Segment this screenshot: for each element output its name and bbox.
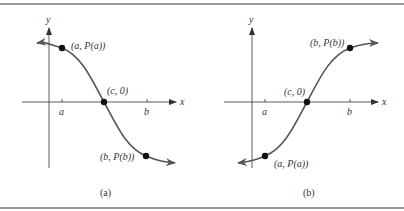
point-c	[304, 99, 310, 105]
panel-a: x y a b (a, P(a)) (c, 0) (b, P(b)) (a)	[22, 14, 185, 199]
tick-a-label: a	[262, 106, 267, 117]
caption-a: (a)	[100, 187, 111, 199]
y-axis-label: y	[45, 14, 51, 25]
curve	[37, 42, 62, 48]
point-a	[59, 45, 65, 51]
x-axis-label: x	[179, 96, 185, 107]
tick-b-label: b	[347, 106, 352, 117]
point-a	[262, 153, 268, 159]
curve-head	[238, 156, 265, 163]
panel-b: x y a b (a, P(a)) (c, 0) (b, P(b)) (b)	[224, 14, 387, 199]
tick-b-label: b	[144, 106, 149, 117]
figure-svg: x y a b (a, P(a)) (c, 0) (b, P(b)) (a) x…	[0, 0, 404, 211]
point-b-label: (b, P(b))	[310, 37, 345, 49]
point-a-label: (a, P(a))	[71, 40, 106, 52]
point-a-label: (a, P(a))	[274, 158, 309, 170]
point-c-label: (c, 0)	[107, 85, 129, 97]
point-b	[143, 153, 149, 159]
point-b	[347, 45, 353, 51]
tick-a-label: a	[59, 106, 64, 117]
curve-tail	[350, 43, 378, 48]
y-axis-label: y	[248, 14, 254, 25]
curve-tail	[146, 156, 175, 163]
x-axis-label: x	[381, 96, 387, 107]
caption-b: (b)	[303, 187, 315, 199]
point-b-label: (b, P(b))	[100, 151, 135, 163]
point-c	[101, 99, 107, 105]
point-c-label: (c, 0)	[284, 86, 306, 98]
